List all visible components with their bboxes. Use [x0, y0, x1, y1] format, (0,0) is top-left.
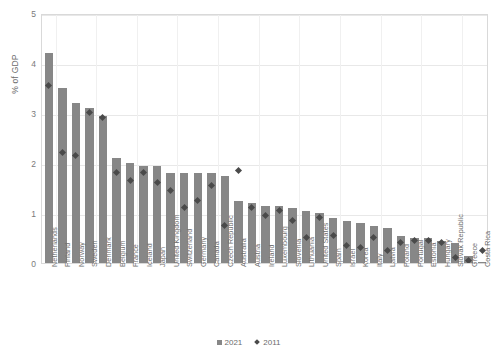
x-axis-tick: Spain: [335, 248, 342, 267]
y-axis-tick: 1: [14, 210, 36, 219]
x-axis-tick: Australia: [240, 238, 247, 267]
gridline-vertical: [259, 15, 260, 263]
bar: [58, 88, 66, 263]
plot-area: [41, 14, 488, 264]
gridline-vertical: [56, 15, 57, 263]
y-axis-tick: 5: [14, 10, 36, 19]
x-axis-tick: United States: [322, 223, 329, 267]
x-axis-tick: Belgium: [119, 240, 126, 267]
legend-label: 2021: [225, 338, 243, 347]
x-axis-tick: France: [132, 244, 139, 267]
x-axis-tick: Slovak Republic: [457, 214, 464, 267]
gridline-vertical: [381, 15, 382, 263]
y-axis-tick: 3: [14, 110, 36, 119]
legend-label: 2011: [263, 338, 280, 347]
x-axis-tick: Czech Republic: [227, 215, 234, 267]
x-axis-tick: Israel: [349, 249, 356, 267]
legend-item-2021[interactable]: 2021: [217, 337, 243, 346]
x-axis-tick: Iceland: [146, 243, 153, 267]
gridline-vertical: [218, 15, 219, 263]
x-axis-tick: Latvia: [389, 247, 396, 267]
gridline-vertical: [96, 15, 97, 263]
y-axis-tick: 4: [14, 60, 36, 69]
x-axis-tick: Austria: [254, 244, 261, 267]
gridline-vertical: [340, 15, 341, 263]
x-axis-tick: Switzerland: [186, 229, 193, 267]
x-axis-tick: Canada: [213, 241, 220, 267]
x-axis-tick: Finland: [64, 243, 71, 267]
x-axis-tick: Germany: [200, 237, 207, 267]
x-axis-tick: Italy: [376, 253, 383, 267]
x-axis-tick: Ireland: [268, 244, 275, 267]
gridline-vertical: [137, 15, 138, 263]
x-axis-tick: United Kingdom: [173, 214, 180, 267]
x-axis-tick: Costa Rica: [484, 231, 491, 267]
y-axis-tick: 2: [14, 160, 36, 169]
x-axis-tick: Korea: [362, 247, 369, 267]
gridline-vertical: [299, 15, 300, 263]
y-axis-title: % of GDP: [10, 24, 26, 124]
x-axis-tick: Luxembourg: [281, 226, 288, 267]
chart-legend: 20212011: [0, 337, 497, 347]
x-axis-tick: Greece: [471, 243, 478, 267]
x-axis-tick: Sweden: [91, 240, 98, 267]
data-point-marker: [235, 166, 242, 173]
x-axis-tick: Slovenia: [295, 239, 302, 267]
x-axis-tick: Japan: [159, 247, 166, 267]
bar: [72, 103, 80, 263]
x-axis-tick: Portugal: [417, 239, 424, 267]
legend-diamond-icon: [254, 339, 260, 345]
x-axis-tick: Netherlands: [51, 227, 58, 267]
legend-square-icon: [217, 340, 222, 345]
gridline-vertical: [421, 15, 422, 263]
x-axis-tick: Lithuania: [308, 237, 315, 267]
chart-figure: % of GDP 012345 NetherlandsFinlandNorway…: [0, 0, 497, 358]
x-axis-tick: Estonia: [430, 242, 437, 267]
legend-item-2011[interactable]: 2011: [254, 337, 280, 346]
x-axis-tick: Denmark: [105, 237, 112, 267]
x-axis-tick: Norway: [78, 242, 85, 267]
x-axis-tick: Poland: [403, 244, 410, 267]
y-axis-tick: 0: [14, 260, 36, 269]
x-axis-tick: Hungary: [444, 239, 451, 267]
